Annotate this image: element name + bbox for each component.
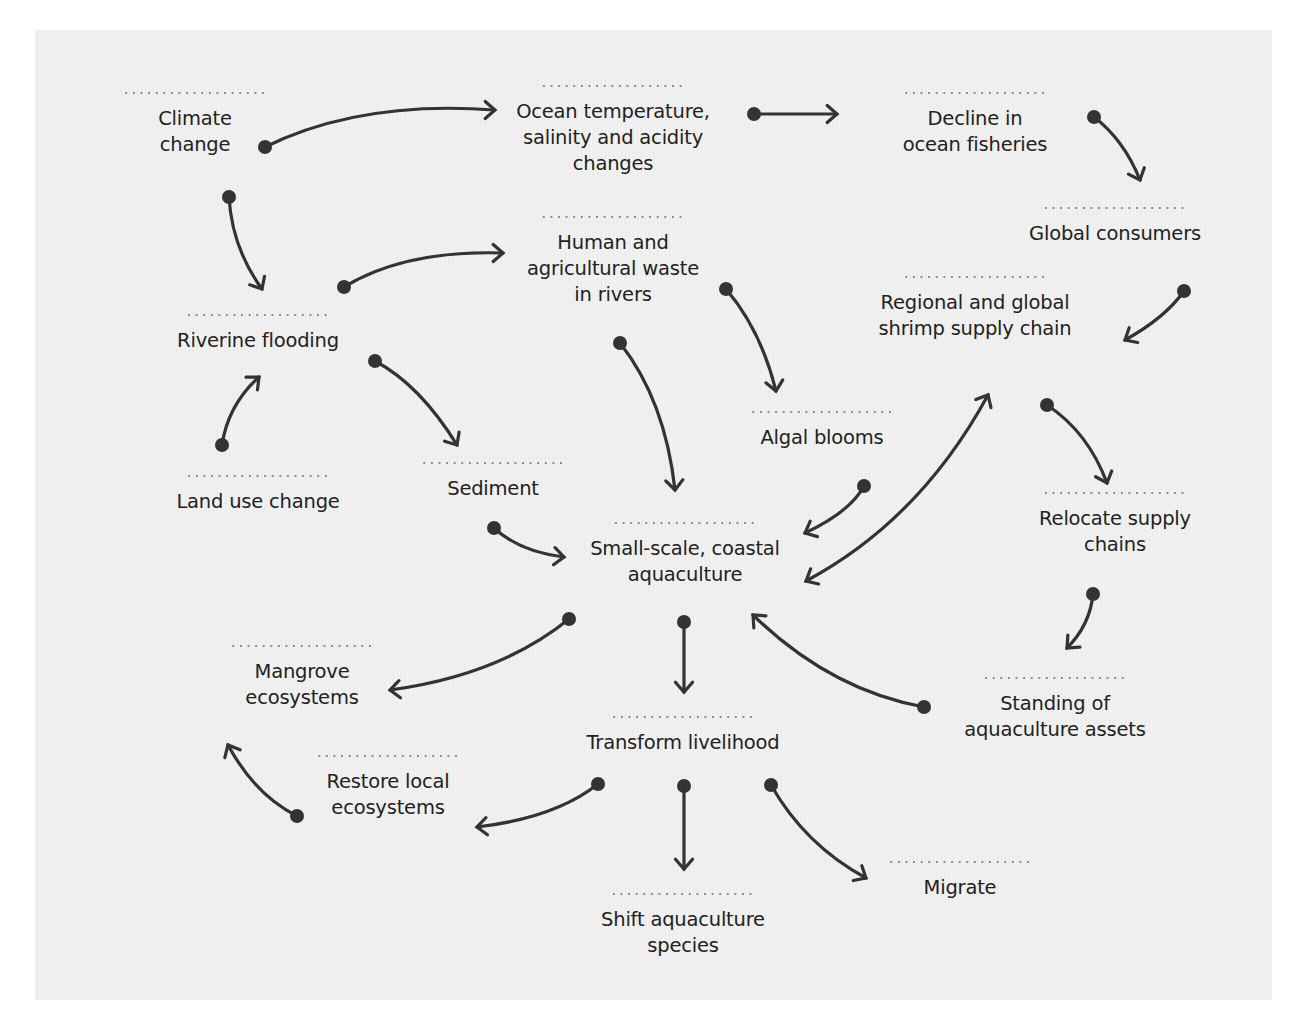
edge-transform-livelihood-to-restore-ecosystems [477,784,598,827]
node-label: Human andagricultural wastein rivers [527,230,699,308]
origin-dot-icon [917,700,931,714]
edge-transform-livelihood-to-migrate [771,785,866,878]
node-shift-species: Shift aquaculturespecies [601,893,765,959]
origin-dot-icon [487,521,501,535]
dotted-rule [611,716,756,718]
node-label: Climatechange [123,106,268,158]
node-riverine-flooding: Riverine flooding [177,314,339,354]
edge-sediment-to-small-scale-aquaculture [494,528,564,557]
node-label: Shift aquaculturespecies [601,907,765,959]
node-label: Mangroveecosystems [230,659,375,711]
origin-dot-icon [591,777,605,791]
dotted-rule [1043,207,1188,209]
node-label: Transform livelihood [587,730,780,756]
origin-dot-icon [764,778,778,792]
edge-shrimp-supply-chain-to-relocate-supply-chains [1047,405,1107,483]
dotted-rule [610,893,755,895]
origin-dot-icon [290,809,304,823]
edge-human-waste-to-small-scale-aquaculture [620,343,675,490]
origin-dot-icon [613,336,627,350]
dotted-rule [903,92,1048,94]
node-label: Restore localecosystems [316,769,461,821]
origin-dot-icon [368,354,382,368]
node-label: Small-scale, coastalaquaculture [590,536,780,588]
edge-standing-assets-to-small-scale-aquaculture [753,615,924,707]
origin-dot-icon [1086,587,1100,601]
node-shrimp-supply-chain: Regional and globalshrimp supply chain [879,276,1072,342]
dotted-rule [983,677,1128,679]
node-restore-ecosystems: Restore localecosystems [316,755,461,821]
dotted-rule [421,462,566,464]
origin-dot-icon [719,282,733,296]
dotted-rule [316,755,461,757]
dotted-rule [1042,492,1187,494]
origin-dot-icon [222,190,236,204]
node-migrate: Migrate [888,861,1033,901]
origin-dot-icon [562,612,576,626]
edge-human-waste-to-algal-blooms [726,289,776,391]
origin-dot-icon [677,615,691,629]
origin-dot-icon [337,280,351,294]
node-ocean-changes: Ocean temperature,salinity and aciditych… [516,85,710,177]
dotted-rule [123,92,268,94]
edge-riverine-flooding-to-sediment [375,361,457,445]
node-label: Land use change [176,489,339,515]
origin-dot-icon [857,479,871,493]
edge-global-consumers-to-shrimp-supply-chain [1125,291,1184,340]
edge-climate-change-to-riverine-flooding [229,197,262,289]
edge-climate-change-to-ocean-changes [265,108,495,147]
node-land-use-change: Land use change [176,475,339,515]
node-label: Standing ofaquaculture assets [964,691,1145,743]
dotted-rule [750,411,895,413]
dotted-rule [613,522,758,524]
origin-dot-icon [1087,110,1101,124]
node-label: Regional and globalshrimp supply chain [879,290,1072,342]
edge-decline-fisheries-to-global-consumers [1094,117,1140,180]
dotted-rule [903,276,1048,278]
edge-small-scale-aquaculture-to-mangrove-ecosystems [390,619,569,690]
edge-restore-ecosystems-to-mangrove-ecosystems [228,745,297,816]
dotted-rule [540,216,685,218]
dotted-rule [541,85,686,87]
node-small-scale-aquaculture: Small-scale, coastalaquaculture [590,522,780,588]
node-label: Algal blooms [750,425,895,451]
node-transform-livelihood: Transform livelihood [587,716,780,756]
node-human-waste: Human andagricultural wastein rivers [527,216,699,308]
dotted-rule [186,314,331,316]
edge-relocate-supply-chains-to-standing-assets [1067,594,1093,648]
node-decline-fisheries: Decline inocean fisheries [903,92,1048,158]
dotted-rule [230,645,375,647]
node-sediment: Sediment [421,462,566,502]
origin-dot-icon [1040,398,1054,412]
node-label: Migrate [888,875,1033,901]
node-relocate-supply-chains: Relocate supplychains [1039,492,1191,558]
node-label: Global consumers [1029,221,1201,247]
node-climate-change: Climatechange [123,92,268,158]
node-mangrove-ecosystems: Mangroveecosystems [230,645,375,711]
node-label: Sediment [421,476,566,502]
edge-algal-blooms-to-small-scale-aquaculture [805,486,864,533]
origin-dot-icon [215,438,229,452]
node-standing-assets: Standing ofaquaculture assets [964,677,1145,743]
dotted-rule [888,861,1033,863]
node-global-consumers: Global consumers [1029,207,1201,247]
node-label: Ocean temperature,salinity and aciditych… [516,99,710,177]
origin-dot-icon [677,779,691,793]
node-algal-blooms: Algal blooms [750,411,895,451]
edge-riverine-flooding-to-human-waste [344,253,503,287]
node-label: Riverine flooding [177,328,339,354]
edge-land-use-change-to-riverine-flooding [222,377,259,445]
origin-dot-icon [747,107,761,121]
node-label: Decline inocean fisheries [903,106,1048,158]
dotted-rule [185,475,330,477]
origin-dot-icon [1177,284,1191,298]
node-label: Relocate supplychains [1039,506,1191,558]
